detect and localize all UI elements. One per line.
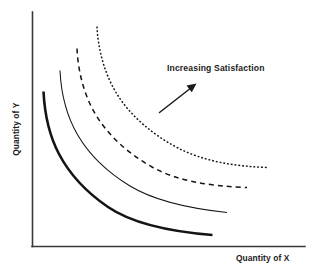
- indifference-curve-figure: Quantity of Y Quantity of X Increasing S…: [0, 0, 318, 275]
- chart-canvas: [0, 0, 318, 275]
- indifference-curve-1: [44, 92, 213, 236]
- y-axis-label: Quantity of Y: [12, 96, 20, 162]
- indifference-curve-2: [60, 71, 227, 213]
- increasing-satisfaction-arrow: [160, 84, 197, 113]
- increasing-satisfaction-label: Increasing Satisfaction: [167, 64, 265, 73]
- arrow-shaft: [160, 88, 192, 113]
- x-axis-label: Quantity of X: [236, 254, 289, 262]
